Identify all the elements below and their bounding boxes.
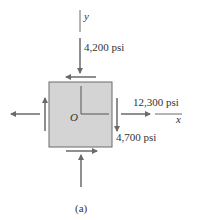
right-shear-stress-label: 4,700 psi (116, 131, 156, 143)
x-axis-label: x (175, 113, 181, 125)
top-stress-label: 4,200 psi (84, 41, 124, 53)
right-normal-stress-label: 12,300 psi (133, 96, 179, 108)
stress-element-diagram: y 4,200 psi O 12,300 psi x 4,700 psi (a) (0, 0, 197, 220)
origin-label: O (70, 111, 78, 123)
figure-caption: (a) (75, 202, 88, 215)
y-axis-label: y (83, 10, 89, 22)
